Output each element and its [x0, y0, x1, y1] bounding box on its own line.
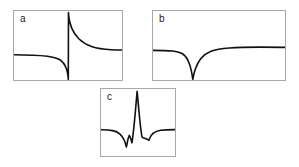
trace-fano-resonance: [101, 91, 175, 146]
trace-dispersive: [14, 12, 122, 79]
panel-a: a: [13, 10, 123, 81]
panel-a-plot: [14, 11, 122, 80]
panel-c-plot: [101, 89, 175, 156]
lineshape-figure: a b c: [0, 0, 299, 167]
panel-b: b: [152, 10, 286, 81]
trace-absorption-dip: [153, 47, 285, 79]
panel-b-plot: [153, 11, 285, 80]
panel-c: c: [100, 88, 176, 157]
